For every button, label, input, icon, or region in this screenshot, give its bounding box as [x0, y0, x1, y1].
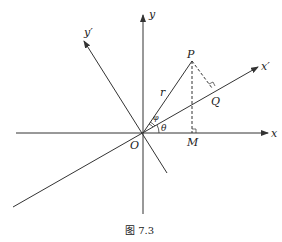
rotation-diagram: x y x′ y′ O P Q M r θ φ 图 7.3 — [0, 0, 282, 242]
theta-arc — [157, 125, 159, 133]
label-y: y — [148, 8, 156, 21]
label-y-prime: y′ — [83, 26, 93, 39]
label-m: M — [186, 136, 199, 149]
label-x-prime: x′ — [261, 60, 270, 73]
right-angle-mark-m — [192, 129, 196, 133]
label-theta: θ — [161, 123, 167, 133]
label-phi: φ — [153, 113, 159, 122]
label-r: r — [160, 86, 166, 99]
x-prime-axis — [13, 67, 258, 207]
phi-arc — [149, 124, 153, 127]
label-p: P — [186, 48, 195, 61]
y-prime-axis — [84, 41, 167, 173]
figure-caption: 图 7.3 — [125, 225, 154, 236]
label-x: x — [271, 127, 278, 140]
label-origin: O — [130, 139, 139, 152]
label-q: Q — [211, 95, 220, 108]
